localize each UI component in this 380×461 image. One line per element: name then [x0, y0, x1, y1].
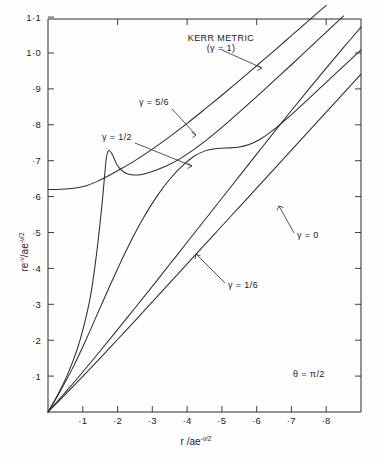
y-tick-label: ·5 — [32, 227, 41, 238]
y-axis-ticks-right — [355, 53, 361, 376]
x-axis-title: r /ae-ν/2 — [181, 435, 212, 447]
arrowhead-gamma-1-2 — [188, 164, 193, 169]
y-tick-label: ·9 — [32, 83, 41, 94]
gamma-0-label: γ = 0 — [297, 230, 319, 240]
leader-gamma-5-6 — [172, 109, 196, 135]
x-tick-label: ·2 — [113, 415, 122, 426]
y-axis-title: re-ν/ae-ν/2 — [18, 232, 30, 271]
leader-gamma-0 — [279, 206, 294, 233]
x-tick-label: ·6 — [252, 415, 261, 426]
curve-gamma-0 — [48, 74, 361, 412]
annotation-labels: KERR METRIC (γ = 1) γ = 5/6 γ = 1/2 γ = … — [102, 33, 325, 379]
gamma-5-6-label: γ = 5/6 — [139, 97, 169, 107]
y-tick-label: ·4 — [32, 263, 41, 274]
gamma-1-2-label: γ = 1/2 — [102, 132, 132, 142]
y-tick-label: ·6 — [32, 191, 41, 202]
y-tick-label: 1·0 — [26, 47, 41, 58]
chart-plot: ·1 ·2 ·3 ·4 ·5 ·6 ·7 ·8 ·9 1·0 1·1 ·1 ·2… — [0, 0, 380, 461]
y-tick-label: ·8 — [32, 119, 41, 130]
gamma-1-6-label: γ = 1/6 — [228, 280, 258, 290]
x-axis-ticks-top — [118, 19, 327, 25]
figure-container: ·1 ·2 ·3 ·4 ·5 ·6 ·7 ·8 ·9 1·0 1·1 ·1 ·2… — [0, 0, 380, 461]
x-tick-label: ·8 — [322, 415, 331, 426]
curve-gamma-1-6 — [48, 27, 361, 412]
kerr-metric-label-line2: (γ = 1) — [207, 43, 236, 53]
x-tick-label: ·4 — [183, 415, 192, 426]
leader-gamma-1-6 — [196, 254, 225, 283]
y-tick-labels: ·1 ·2 ·3 ·4 ·5 ·6 ·7 ·8 ·9 1·0 1·1 — [26, 12, 41, 382]
data-curves — [48, 5, 361, 412]
x-tick-label: ·3 — [148, 415, 157, 426]
x-tick-label: ·5 — [217, 415, 226, 426]
curve-gamma-5-6 — [48, 16, 344, 412]
x-tick-label: ·7 — [287, 415, 296, 426]
x-axis-ticks — [83, 406, 326, 412]
x-tick-labels: ·1 ·2 ·3 ·4 ·5 ·6 ·7 ·8 — [78, 415, 330, 426]
y-tick-label: ·7 — [32, 155, 41, 166]
x-tick-label: ·1 — [78, 415, 87, 426]
y-tick-label: 1·1 — [26, 12, 41, 23]
arrowhead-gamma-1-6 — [195, 254, 201, 259]
y-tick-label: ·3 — [32, 299, 41, 310]
y-axis-ticks — [48, 17, 54, 376]
y-tick-label: ·2 — [32, 335, 41, 346]
plot-frame — [48, 19, 361, 412]
y-tick-label: ·1 — [32, 371, 41, 382]
theta-condition-label: θ = π/2 — [293, 369, 325, 379]
kerr-metric-label-line1: KERR METRIC — [188, 33, 255, 43]
